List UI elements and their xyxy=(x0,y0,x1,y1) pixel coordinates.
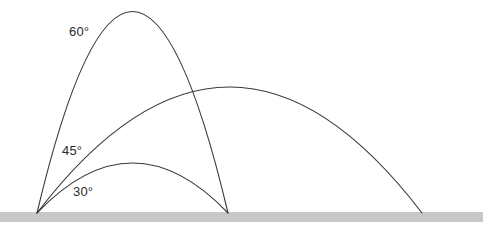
angle-label-45: 45° xyxy=(62,144,82,158)
ground-bar xyxy=(0,212,483,222)
trajectory-curve-30deg xyxy=(37,163,228,213)
angle-label-30: 30° xyxy=(73,185,93,199)
angle-label-60: 60° xyxy=(69,25,89,39)
trajectory-curve-45deg xyxy=(37,87,422,213)
projectile-diagram: 60° 45° 30° xyxy=(0,0,483,230)
trajectory-curve-60deg xyxy=(37,12,228,214)
